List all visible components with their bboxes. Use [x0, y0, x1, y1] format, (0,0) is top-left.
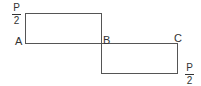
point-a-label: A [15, 36, 22, 47]
denominator: 2 [14, 16, 20, 26]
point-c-label: C [174, 33, 182, 44]
denominator: 2 [187, 76, 193, 86]
shear-diagram-lines [0, 0, 201, 86]
bottom-value-label: P 2 [185, 63, 194, 86]
negative-shear-block [102, 44, 178, 74]
numerator: P [13, 3, 20, 13]
positive-shear-block [26, 14, 102, 44]
numerator: P [186, 63, 193, 73]
top-value-label: P 2 [12, 3, 21, 26]
point-b-label: B [103, 35, 110, 46]
